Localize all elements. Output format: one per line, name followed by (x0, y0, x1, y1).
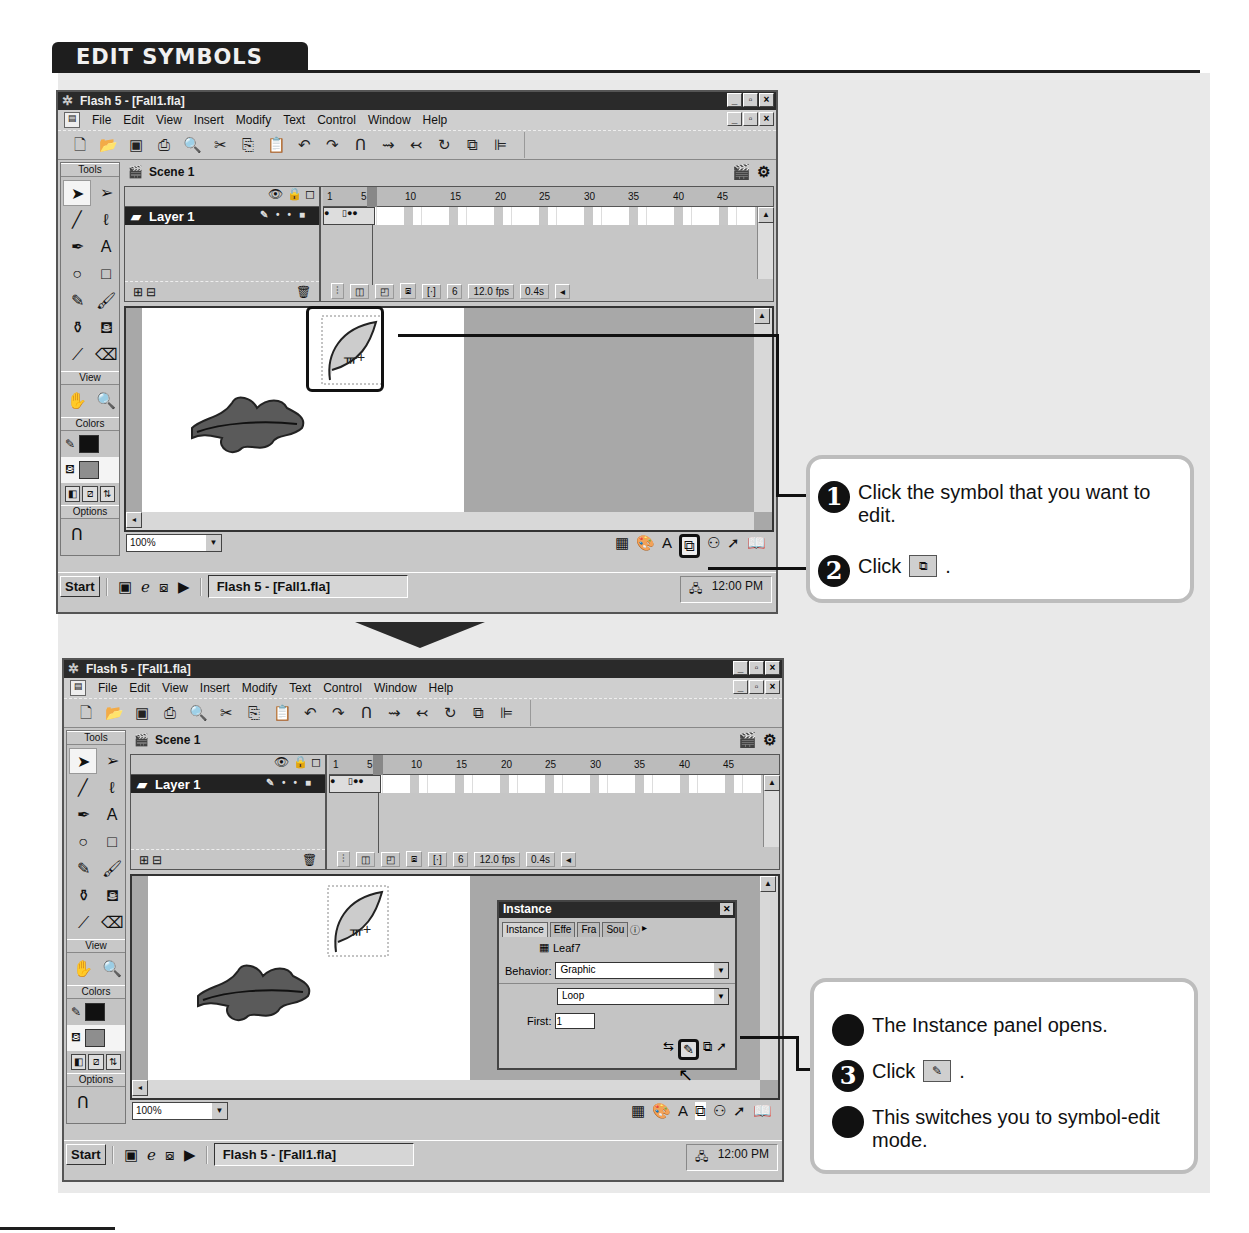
eyedropper-tool-icon[interactable]: ⟋ (69, 910, 97, 936)
edit-multiple-icon[interactable]: ⧈ (400, 283, 416, 299)
menu-window[interactable]: Window (362, 113, 417, 127)
edit-symbol-icon[interactable]: ✎ (678, 1039, 699, 1060)
eyedropper-tool-icon[interactable]: ⟋ (63, 342, 91, 368)
cut-icon[interactable]: ✂ (216, 703, 236, 723)
rectangle-tool-icon[interactable]: □ (92, 261, 120, 287)
open-file-icon[interactable]: 📂 (104, 703, 124, 723)
arrow-tool-icon[interactable]: ➤ (69, 748, 97, 774)
help-icon[interactable]: ⓘ (630, 922, 640, 937)
paint-bucket-tool-icon[interactable]: ⛾ (98, 883, 126, 909)
close-button[interactable]: × (759, 93, 774, 107)
menu-control[interactable]: Control (311, 113, 362, 127)
onion-skin-icon[interactable]: ◫ (350, 284, 369, 299)
edit-symbols-icon[interactable]: ⚙ (763, 731, 776, 749)
cut-icon[interactable]: ✂ (210, 135, 230, 155)
stage[interactable]: ᚃ+ (148, 876, 470, 1080)
swap-colors-icon[interactable]: ⇅ (106, 1054, 121, 1070)
hand-tool-icon[interactable]: ✋ (69, 956, 97, 982)
scroll-up-icon[interactable]: ▲ (760, 876, 776, 892)
pen-tool-icon[interactable]: ✒ (69, 802, 97, 828)
edit-scene-icon[interactable]: 🎬 (732, 163, 751, 181)
edit-multiple-icon[interactable]: ⧈ (406, 851, 422, 867)
onion-outline-icon[interactable]: ◰ (381, 852, 400, 867)
instance-panel-icon[interactable]: ⧉ (695, 1102, 706, 1120)
no-color-icon[interactable]: ⧄ (88, 1054, 103, 1070)
edit-symbols-icon[interactable]: ⚙ (757, 163, 770, 181)
brush-tool-icon[interactable]: 🖌 (92, 288, 120, 314)
swap-colors-icon[interactable]: ⇅ (100, 486, 115, 502)
actions-icon[interactable]: ➚ (733, 1102, 746, 1120)
tab-sound[interactable]: Sou (602, 922, 628, 937)
taskbar-item-flash[interactable]: Flash 5 - [Fall1.fla] (208, 575, 408, 598)
center-frame-icon[interactable]: ⫶ (331, 283, 344, 299)
new-file-icon[interactable]: 🗋 (76, 703, 96, 723)
rectangle-tool-icon[interactable]: □ (98, 829, 126, 855)
timeline-vscroll[interactable]: ▲ (763, 775, 779, 847)
smooth-icon[interactable]: ⇝ (384, 703, 404, 723)
close-icon[interactable]: ✕ (720, 903, 733, 915)
doc-close-button[interactable]: × (759, 112, 774, 126)
subselect-tool-icon[interactable]: ➢ (92, 180, 120, 206)
menu-file[interactable]: File (92, 681, 123, 695)
start-button[interactable]: Start (60, 576, 100, 597)
dropdown-arrow-icon[interactable]: ▼ (714, 989, 728, 1004)
oval-tool-icon[interactable]: ○ (69, 829, 97, 855)
desktop-icon[interactable]: ▣ (124, 1146, 138, 1164)
center-frame-icon[interactable]: ⫶ (337, 851, 350, 867)
stage[interactable]: ᚃ+ (142, 308, 464, 512)
tab-effect[interactable]: Effe (550, 922, 576, 937)
character-panel-icon[interactable]: A (662, 534, 672, 558)
arrow-tool-icon[interactable]: ➤ (63, 180, 91, 206)
restore-button[interactable]: ▫ (749, 661, 764, 675)
menu-view[interactable]: View (156, 681, 194, 695)
save-icon[interactable]: ▣ (132, 703, 152, 723)
paste-icon[interactable]: 📋 (266, 135, 286, 155)
character-panel-icon[interactable]: A (678, 1102, 688, 1120)
frame-ruler[interactable]: 1 5 10 15 20 25 30 35 40 45 (329, 755, 779, 775)
open-file-icon[interactable]: 📂 (98, 135, 118, 155)
text-tool-icon[interactable]: A (98, 802, 126, 828)
menu-window[interactable]: Window (368, 681, 423, 695)
lasso-tool-icon[interactable]: ℓ (92, 207, 120, 233)
straighten-icon[interactable]: ↢ (412, 703, 432, 723)
stage-vscroll[interactable]: ▲ (754, 308, 772, 512)
frame-ruler[interactable]: 1 5 10 15 20 25 30 35 40 45 (323, 187, 773, 207)
tray-icon[interactable]: 🖧 (689, 579, 702, 600)
duplicate-symbol-icon[interactable]: ⧉ (703, 1039, 712, 1060)
doc-minimize-button[interactable]: _ (727, 112, 742, 126)
stage-vscroll[interactable]: ▲ (760, 876, 778, 1080)
frame-row[interactable]: ● ▯●● (329, 775, 761, 793)
menu-control[interactable]: Control (317, 681, 368, 695)
panel-menu-icon[interactable]: ▸ (642, 922, 647, 937)
undo-icon[interactable]: ↶ (294, 135, 314, 155)
snap-option-icon[interactable]: Ո (63, 522, 91, 548)
scroll-left-icon[interactable]: ◂ (555, 284, 570, 299)
paste-icon[interactable]: 📋 (272, 703, 292, 723)
minimize-button[interactable]: _ (733, 661, 748, 675)
eraser-tool-icon[interactable]: ⌫ (92, 342, 120, 368)
align-icon[interactable]: ⊫ (496, 703, 516, 723)
default-colors-icon[interactable]: ◧ (65, 486, 80, 502)
info-panel-icon[interactable]: ▦ (631, 1102, 645, 1120)
media-icon[interactable]: ▶ (184, 1146, 196, 1164)
dropdown-arrow-icon[interactable]: ▼ (212, 1103, 227, 1119)
leaf-symbol-instance[interactable]: ᚃ+ (326, 884, 390, 958)
behavior-select[interactable]: Graphic ▼ (555, 962, 729, 979)
fill-color-swatch[interactable] (85, 1029, 105, 1047)
close-button[interactable]: × (765, 661, 780, 675)
ie-icon[interactable]: ℯ (141, 578, 150, 596)
minimize-button[interactable]: _ (727, 93, 742, 107)
add-layer-icon[interactable]: ⊞ ⊟ (139, 853, 162, 867)
menu-insert[interactable]: Insert (188, 113, 230, 127)
layer-row[interactable]: ▰ Layer 1 ✎••■ (131, 775, 325, 793)
menu-insert[interactable]: Insert (194, 681, 236, 695)
onion-markers-icon[interactable]: [·] (422, 284, 441, 299)
onion-skin-icon[interactable]: ◫ (356, 852, 375, 867)
menu-text[interactable]: Text (283, 681, 317, 695)
hand-tool-icon[interactable]: ✋ (63, 388, 91, 414)
scroll-left-icon[interactable]: ◂ (132, 1080, 148, 1096)
menu-text[interactable]: Text (277, 113, 311, 127)
menu-view[interactable]: View (150, 113, 188, 127)
document-icon[interactable]: ▤ (70, 680, 86, 696)
scroll-left-icon[interactable]: ◂ (126, 512, 142, 528)
